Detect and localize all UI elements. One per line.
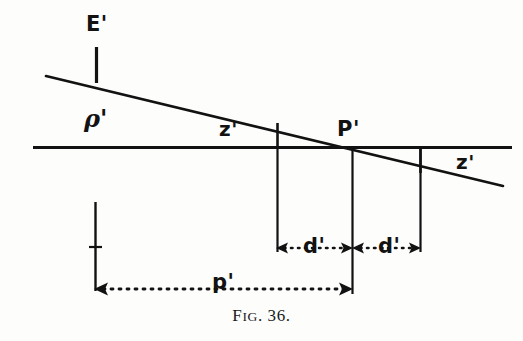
oblique-ray-line xyxy=(46,76,503,186)
label-e-prime: E' xyxy=(86,14,108,35)
label-z-prime-left: z' xyxy=(219,119,238,139)
p-prime-arrow-end xyxy=(339,283,353,296)
label-rho-prime: ρ' xyxy=(84,107,107,131)
optical-diagram xyxy=(0,0,523,341)
figure-caption: FIG. 36. xyxy=(0,306,523,326)
figure-page: E' ρ' z' P' z' d' d' p' FIG. 36. xyxy=(0,0,523,341)
caption-f: F xyxy=(232,306,242,325)
label-d-prime-left: d' xyxy=(303,236,325,257)
caption-ig: IG xyxy=(242,309,257,324)
label-d-prime-right: d' xyxy=(378,236,400,257)
label-p-prime-distance: p' xyxy=(212,272,234,293)
label-p-prime-point: P' xyxy=(337,119,360,140)
label-z-prime-right: z' xyxy=(456,152,475,172)
caption-number: . 36. xyxy=(258,306,291,325)
